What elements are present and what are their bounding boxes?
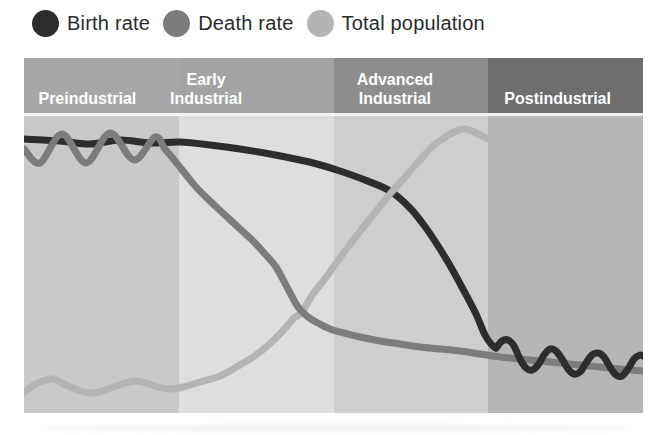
- stage-header-postindustrial: Postindustrial: [488, 58, 643, 113]
- curves-svg: [24, 116, 643, 413]
- chart: Preindustrial Early Industrial Advanced …: [24, 58, 643, 413]
- total-population-curve: [500, 145, 643, 155]
- legend-label: Death rate: [198, 12, 293, 35]
- legend-label: Birth rate: [67, 12, 150, 35]
- stage-header-advanced-industrial: Advanced Industrial: [334, 58, 489, 113]
- legend: Birth rate Death rate Total population: [32, 10, 485, 37]
- stage-header-early-industrial: Early Industrial: [179, 58, 334, 113]
- stage-label: Advanced Industrial: [357, 70, 433, 108]
- legend-item-total-population: Total population: [307, 10, 485, 37]
- death-rate-swatch-icon: [163, 10, 190, 37]
- stage-label: Postindustrial: [504, 89, 611, 108]
- stage-label: Preindustrial: [38, 89, 136, 108]
- legend-item-death-rate: Death rate: [163, 10, 293, 37]
- total-population-swatch-icon: [307, 10, 334, 37]
- legend-item-birth-rate: Birth rate: [32, 10, 150, 37]
- stage-header-band: Preindustrial Early Industrial Advanced …: [24, 58, 643, 116]
- legend-label: Total population: [342, 12, 485, 35]
- stage-label: Early Industrial: [170, 70, 242, 108]
- total-population-curve: [24, 129, 500, 393]
- stage-header-preindustrial: Preindustrial: [24, 58, 179, 113]
- plot-area: [24, 116, 643, 413]
- birth-rate-swatch-icon: [32, 10, 59, 37]
- page-shadow-artifact: [40, 425, 630, 431]
- demographic-transition-figure: Birth rate Death rate Total population P…: [0, 0, 670, 435]
